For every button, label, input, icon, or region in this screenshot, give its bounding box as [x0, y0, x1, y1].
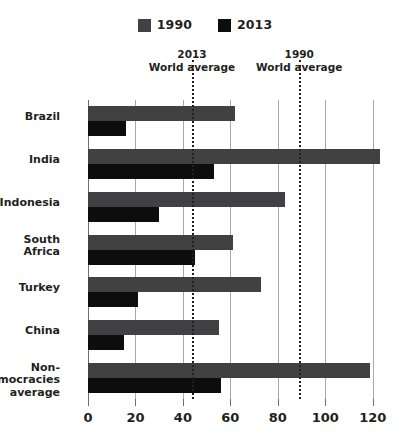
category-label-line: China: [0, 325, 60, 338]
category-label-line: democracies: [0, 374, 60, 387]
x-tick-120: [373, 399, 374, 406]
gridline-100: [325, 100, 326, 399]
category-label-line: India: [0, 154, 60, 167]
x-tick-0: [88, 399, 89, 406]
bar-2013-india: [88, 164, 214, 179]
bar-1990-china: [88, 320, 219, 335]
bar-2013-brazil: [88, 121, 126, 136]
category-label-line: Africa: [0, 246, 60, 259]
bar-1990-south-africa: [88, 235, 233, 250]
x-tick-100: [325, 399, 326, 406]
bar-2013-south-africa: [88, 250, 195, 265]
x-tick-label-20: 20: [126, 411, 144, 424]
legend-item-1990: 1990: [138, 19, 192, 32]
bar-chart: 1990 2013 2013 World average 1990 World …: [0, 0, 410, 446]
category-label-line: Turkey: [0, 282, 60, 295]
category-label-south-africa: SouthAfrica: [0, 234, 60, 259]
category-label-non-democracies-average: Non-democraciesaverage: [0, 362, 60, 400]
legend-label-2013: 2013: [237, 19, 272, 32]
bar-2013-indonesia: [88, 207, 159, 222]
x-tick-label-100: 100: [312, 411, 339, 424]
legend-swatch-1990: [138, 19, 151, 32]
bar-2013-china: [88, 335, 124, 350]
gridline-120: [373, 100, 374, 399]
x-tick-label-120: 120: [359, 411, 386, 424]
bar-2013-non-democracies-average: [88, 378, 221, 393]
chart-legend: 1990 2013: [0, 19, 410, 32]
category-label-brazil: Brazil: [0, 111, 60, 124]
plot-area: BrazilIndiaIndonesiaSouthAfricaTurkeyChi…: [88, 100, 387, 399]
bar-1990-turkey: [88, 277, 261, 292]
category-label-line: Brazil: [0, 111, 60, 124]
bar-1990-non-democracies-average: [88, 363, 370, 378]
category-label-turkey: Turkey: [0, 282, 60, 295]
reference-line-2013-world-average: [192, 60, 194, 399]
gridline-80: [278, 100, 279, 399]
x-tick-20: [135, 399, 136, 406]
x-tick-label-80: 80: [269, 411, 287, 424]
x-tick-80: [278, 399, 279, 406]
bar-1990-india: [88, 149, 380, 164]
x-tick-label-40: 40: [174, 411, 192, 424]
gridline-60: [230, 100, 231, 399]
x-tick-label-0: 0: [83, 411, 92, 424]
annotation-line-1: 2013: [149, 48, 235, 61]
x-tick-label-60: 60: [221, 411, 239, 424]
annotation-line-1: 1990: [256, 48, 342, 61]
bar-1990-brazil: [88, 106, 235, 121]
legend-item-2013: 2013: [218, 19, 272, 32]
legend-swatch-2013: [218, 19, 231, 32]
category-label-india: India: [0, 154, 60, 167]
x-tick-40: [183, 399, 184, 406]
category-label-china: China: [0, 325, 60, 338]
bar-2013-turkey: [88, 292, 138, 307]
category-label-line: Indonesia: [0, 197, 60, 210]
bar-1990-indonesia: [88, 192, 285, 207]
category-label-line: average: [0, 387, 60, 400]
legend-label-1990: 1990: [157, 19, 192, 32]
reference-line-1990-world-average: [299, 60, 301, 399]
x-tick-60: [230, 399, 231, 406]
category-label-indonesia: Indonesia: [0, 197, 60, 210]
